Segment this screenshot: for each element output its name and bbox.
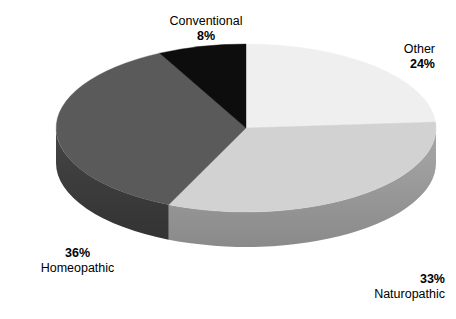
slice-label-other: Other 24% xyxy=(330,42,435,71)
slice-label-other-category: Other xyxy=(330,42,435,57)
slice-label-conventional: Conventional 8% xyxy=(141,14,271,43)
slice-label-homeopathic-percent: 36% xyxy=(15,246,140,261)
slice-label-homeopathic-category: Homeopathic xyxy=(15,261,140,276)
slice-label-conventional-percent: 8% xyxy=(141,29,271,44)
slice-label-naturopathic-percent: 33% xyxy=(320,272,445,287)
slice-label-naturopathic: 33% Naturopathic xyxy=(320,272,445,301)
slice-label-naturopathic-category: Naturopathic xyxy=(320,287,445,302)
pie-chart-figure: Conventional 8% Other 24% 33% Naturopath… xyxy=(0,0,456,319)
slice-label-other-percent: 24% xyxy=(330,57,435,72)
slice-label-homeopathic: 36% Homeopathic xyxy=(15,246,140,275)
slice-label-conventional-category: Conventional xyxy=(141,14,271,29)
